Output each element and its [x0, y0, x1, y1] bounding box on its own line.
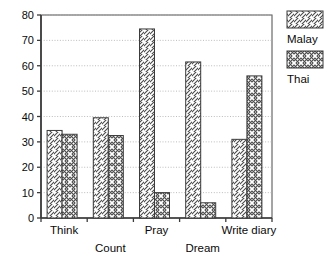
- bar-thai-dream: [201, 203, 216, 218]
- bar-thai-count: [108, 136, 123, 218]
- y-axis-tick-label: 70: [22, 34, 34, 46]
- y-axis-tick-label: 20: [22, 161, 34, 173]
- y-axis-tick-label: 30: [22, 136, 34, 148]
- legend-swatch-thai: [287, 51, 323, 68]
- chart-canvas: 01020304050607080 ThinkCountPrayDreamWri…: [0, 0, 332, 261]
- legend-label-thai: Thai: [287, 73, 309, 85]
- bar-malay-dream: [186, 62, 201, 218]
- bar-malay-pray: [140, 29, 155, 218]
- y-axis-tick-label: 80: [22, 9, 34, 21]
- legend-label-malay: Malay: [287, 33, 318, 45]
- y-axis-tick-label: 50: [22, 85, 34, 97]
- x-axis-label-pray: Pray: [145, 224, 169, 236]
- y-axis-tick-label: 60: [22, 60, 34, 72]
- bar-thai-write-diary: [247, 76, 262, 218]
- x-axis-label-write-diary: Write diary: [222, 224, 277, 236]
- bar-malay-think: [47, 130, 62, 218]
- x-axis-label-dream: Dream: [185, 242, 220, 254]
- y-axis-tick-label: 10: [22, 187, 34, 199]
- x-axis-label-think: Think: [50, 224, 78, 236]
- bar-chart: 01020304050607080 ThinkCountPrayDreamWri…: [0, 0, 332, 261]
- bar-thai-pray: [155, 193, 170, 218]
- bar-malay-write-diary: [232, 139, 247, 218]
- bar-thai-think: [62, 134, 77, 218]
- y-axis-tick-labels: 01020304050607080: [22, 9, 34, 224]
- x-axis-label-count: Count: [95, 242, 126, 254]
- bar-malay-count: [93, 118, 108, 218]
- y-axis-tick-label: 0: [28, 212, 34, 224]
- y-axis-tick-label: 40: [22, 111, 34, 123]
- legend-swatch-malay: [287, 11, 323, 28]
